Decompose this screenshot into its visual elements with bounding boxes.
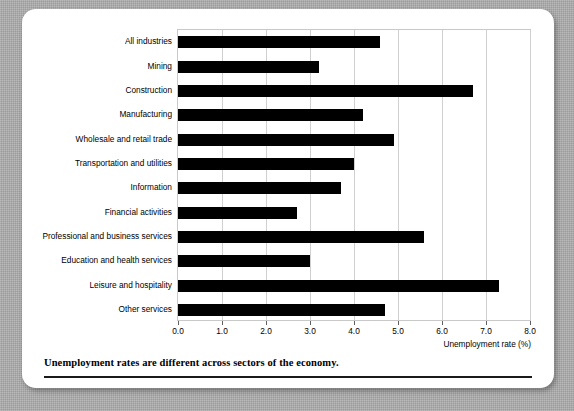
bar	[178, 109, 363, 121]
gridline	[266, 30, 267, 320]
x-tick-mark	[354, 321, 355, 325]
category-label: Education and health services	[22, 255, 172, 265]
category-label: Transportation and utilities	[22, 158, 172, 168]
bar	[178, 304, 385, 316]
gridline	[398, 30, 399, 320]
category-axis-labels: All industriesMiningConstructionManufact…	[22, 29, 172, 321]
x-tick-label: 3.0	[290, 326, 330, 336]
x-tick-mark	[486, 321, 487, 325]
x-tick-label: 4.0	[334, 326, 374, 336]
plot-area	[177, 29, 531, 321]
category-label: Leisure and hospitality	[22, 280, 172, 290]
bar	[178, 134, 394, 146]
bar	[178, 158, 354, 170]
x-tick-label: 6.0	[422, 326, 462, 336]
x-tick-mark	[398, 321, 399, 325]
caption-divider	[44, 376, 532, 378]
bar-chart: All industriesMiningConstructionManufact…	[22, 15, 554, 349]
gridline	[442, 30, 443, 320]
figure-caption: Unemployment rates are different across …	[44, 357, 532, 368]
category-label: Mining	[22, 61, 172, 71]
x-tick-mark	[178, 321, 179, 325]
category-label: Financial activities	[22, 207, 172, 217]
gridline	[354, 30, 355, 320]
x-tick-label: 5.0	[378, 326, 418, 336]
x-axis-title: Unemployment rate (%)	[322, 339, 531, 349]
x-tick-mark	[310, 321, 311, 325]
x-tick-mark	[222, 321, 223, 325]
x-tick-mark	[266, 321, 267, 325]
gridline	[486, 30, 487, 320]
gridline	[530, 30, 531, 320]
category-label: Manufacturing	[22, 109, 172, 119]
bar	[178, 280, 499, 292]
bar	[178, 255, 310, 267]
x-tick-label: 2.0	[246, 326, 286, 336]
category-label: Other services	[22, 304, 172, 314]
bar	[178, 36, 380, 48]
x-tick-label: 1.0	[202, 326, 242, 336]
x-tick-label: 0.0	[158, 326, 198, 336]
x-tick-label: 8.0	[510, 326, 550, 336]
category-label: Information	[22, 182, 172, 192]
x-tick-label: 7.0	[466, 326, 506, 336]
category-label: Construction	[22, 85, 172, 95]
x-tick-mark	[530, 321, 531, 325]
bar	[178, 231, 424, 243]
bar	[178, 85, 473, 97]
gridline	[310, 30, 311, 320]
gridline	[222, 30, 223, 320]
bar	[178, 61, 319, 73]
x-tick-mark	[442, 321, 443, 325]
figure-card: All industriesMiningConstructionManufact…	[22, 9, 554, 388]
bar	[178, 182, 341, 194]
category-label: Wholesale and retail trade	[22, 134, 172, 144]
bar	[178, 207, 297, 219]
category-label: All industries	[22, 36, 172, 46]
category-label: Professional and business services	[22, 231, 172, 241]
